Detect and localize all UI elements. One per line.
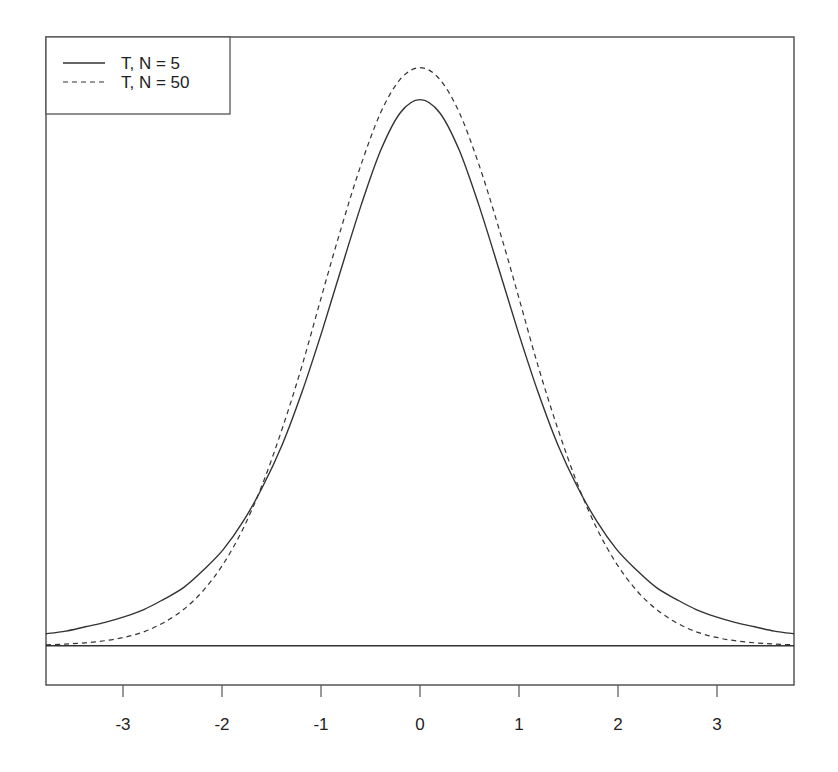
x-tick-label: -1 xyxy=(313,715,328,734)
series-line-n50 xyxy=(46,68,794,645)
series-line-n5 xyxy=(46,100,794,634)
x-tick-label: 2 xyxy=(613,715,622,734)
x-tick: -1 xyxy=(313,685,328,734)
x-tick-label: -2 xyxy=(214,715,229,734)
legend: T, N = 5 T, N = 50 xyxy=(46,37,230,114)
legend-label: T, N = 50 xyxy=(121,73,190,92)
x-tick: 3 xyxy=(712,685,721,734)
x-tick: 0 xyxy=(415,685,424,734)
x-tick-label: 3 xyxy=(712,715,721,734)
x-tick-label: 0 xyxy=(415,715,424,734)
x-tick: 1 xyxy=(514,685,523,734)
density-chart: -3 -2 -1 0 1 2 3 T, N = xyxy=(0,0,838,772)
x-tick: -2 xyxy=(214,685,229,734)
x-tick: -3 xyxy=(115,685,130,734)
legend-label: T, N = 5 xyxy=(121,54,180,73)
x-tick: 2 xyxy=(613,685,622,734)
x-tick-label: -3 xyxy=(115,715,130,734)
plot-frame xyxy=(46,37,794,685)
x-tick-label: 1 xyxy=(514,715,523,734)
x-axis: -3 -2 -1 0 1 2 3 xyxy=(115,685,721,734)
